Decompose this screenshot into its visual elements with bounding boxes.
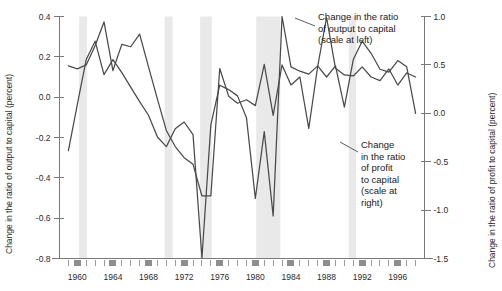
y-axis-tick-label: -0.6 (36, 213, 51, 223)
y2-axis-tick-label: -1.5 (434, 254, 449, 264)
y-axis-tick-label: -0.2 (36, 133, 51, 143)
x-axis-major-tick (109, 260, 116, 267)
x-axis-major-tick (181, 260, 188, 267)
x-axis-tick-label: 1996 (388, 272, 407, 282)
x-axis-tick-label: 1976 (210, 272, 229, 282)
x-axis-tick-label: 1968 (139, 272, 158, 282)
annotation-line: of output to capital (318, 23, 396, 34)
annotation-line: Change in the ratio (318, 11, 398, 22)
x-axis-major-tick (216, 260, 223, 267)
x-axis-tick-label: 1988 (317, 272, 336, 282)
y2-axis-tick-label: 0.5 (434, 60, 446, 70)
x-axis-major-tick (287, 260, 294, 267)
chart-figure: 0.40.20.0-0.2-0.4-0.6-0.81.00.50.0-0.5-1… (0, 0, 502, 291)
x-axis-tick-label: 1972 (175, 272, 194, 282)
y-axis-tick-label: 0.2 (39, 52, 51, 62)
y2-axis-tick-label: -0.5 (434, 157, 449, 167)
x-axis-tick-label: 1992 (353, 272, 372, 282)
y-axis-tick-label: 0.4 (39, 12, 51, 22)
y-axis-tick-label: -0.8 (36, 254, 51, 264)
annotation-line: to capital (361, 174, 399, 185)
y2-axis-tick-label: 1.0 (434, 12, 446, 22)
annotation-line: (scale at (361, 185, 397, 196)
left-axis-title: Change in the ratio of output to capital… (4, 74, 14, 254)
annotation-line: of profit (361, 162, 393, 173)
x-axis-major-tick (145, 260, 152, 267)
y2-axis-tick-label: -1.0 (434, 205, 449, 215)
recession-band (79, 17, 87, 259)
x-axis-tick-label: 1984 (282, 272, 301, 282)
annotation-line: right) (361, 197, 383, 208)
x-axis-tick-label: 1960 (68, 272, 87, 282)
annotation-line: Change (361, 139, 394, 150)
x-axis-major-tick (252, 260, 259, 267)
x-axis-major-tick (359, 260, 366, 267)
y-axis-tick-label: -0.4 (36, 173, 51, 183)
x-axis-major-tick (74, 260, 81, 267)
annotation-line: in the ratio (361, 151, 405, 162)
x-axis-major-tick (323, 260, 330, 267)
y2-axis-tick-label: 0.0 (434, 108, 446, 118)
x-axis-major-tick (394, 260, 401, 267)
x-axis-tick-label: 1964 (103, 272, 122, 282)
dual-axis-line-chart: 0.40.20.0-0.2-0.4-0.6-0.81.00.50.0-0.5-1… (0, 0, 502, 291)
y-axis-tick-label: 0.0 (39, 92, 51, 102)
recession-band (349, 17, 356, 259)
chart-background (0, 0, 502, 291)
x-axis-tick-label: 1980 (246, 272, 265, 282)
annotation-line: (scale at left) (318, 34, 372, 45)
right-axis-title: Change in the ratio of profit to capital… (487, 93, 497, 268)
